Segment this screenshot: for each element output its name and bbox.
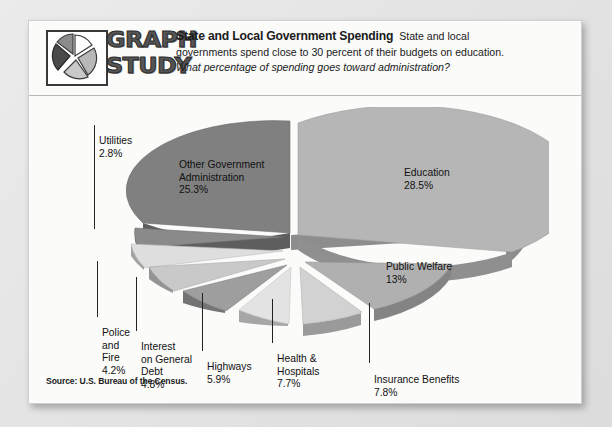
label-education-value: 28.5% xyxy=(404,180,450,192)
label-health-and-hospitals-name: Health & Hospitals xyxy=(277,353,319,376)
leader-line-highways xyxy=(202,293,203,351)
source-note: Source: U.S. Bureau of the Census. xyxy=(46,376,187,386)
label-utilities-name: Utilities xyxy=(99,135,132,146)
page-subtitle: governments spend close to 30 percent of… xyxy=(176,45,568,59)
pie-chart-graphic xyxy=(69,107,549,337)
leader-line-police-and-fire xyxy=(97,261,98,317)
label-education-name: Education xyxy=(404,167,450,178)
label-insurance-benefits: Insurance Benefits 7.8% xyxy=(374,362,459,403)
page-title: State and Local Government SpendingState… xyxy=(176,29,568,44)
label-other-government-administration-name: Other Government Administration xyxy=(179,159,264,182)
page-title-strong: State and Local Government Spending xyxy=(176,29,393,43)
pie-chart: Utilities 2.8% Other Government Administ… xyxy=(29,97,581,403)
label-public-welfare-value: 13% xyxy=(386,274,452,286)
graph-study-logo-frame xyxy=(46,30,108,86)
label-highways-value: 5.9% xyxy=(207,374,252,386)
label-utilities-value: 2.8% xyxy=(99,148,132,160)
card-header: GRAPH STUDY State and Local Government S… xyxy=(29,21,581,97)
leader-line-utilities xyxy=(94,125,95,229)
leader-line-interest-on-general-debt xyxy=(136,277,137,331)
leader-line-health-and-hospitals xyxy=(272,299,273,343)
pie-chart-logo-icon xyxy=(48,32,102,80)
label-interest-on-general-debt: Interest on General Debt 4.8% xyxy=(141,329,192,403)
label-public-welfare-name: Public Welfare xyxy=(386,261,452,272)
graph-study-card: GRAPH STUDY State and Local Government S… xyxy=(28,20,582,404)
header-divider xyxy=(29,95,581,96)
page-question: What percentage of spending goes toward … xyxy=(176,60,568,74)
label-highways: Highways 5.9% xyxy=(207,349,252,399)
label-police-and-fire-name: Police and Fire xyxy=(102,327,130,363)
label-insurance-benefits-name: Insurance Benefits xyxy=(374,374,459,385)
label-utilities: Utilities 2.8% xyxy=(99,123,132,173)
label-interest-on-general-debt-name: Interest on General Debt xyxy=(141,341,192,377)
label-health-and-hospitals-value: 7.7% xyxy=(277,378,319,390)
label-other-government-administration: Other Government Administration 25.3% xyxy=(179,147,264,209)
label-insurance-benefits-value: 7.8% xyxy=(374,387,459,399)
leader-line-insurance-benefits xyxy=(369,303,370,363)
label-other-government-administration-value: 25.3% xyxy=(179,184,264,196)
label-highways-name: Highways xyxy=(207,361,252,372)
label-health-and-hospitals: Health & Hospitals 7.7% xyxy=(277,341,319,403)
label-education: Education 28.5% xyxy=(404,155,450,205)
headline-block: State and Local Government SpendingState… xyxy=(176,29,568,74)
page-title-tail: State and local xyxy=(393,30,469,42)
label-public-welfare: Public Welfare 13% xyxy=(386,249,452,299)
